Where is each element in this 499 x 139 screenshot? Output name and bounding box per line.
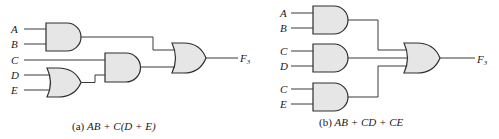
and-gate-c-de: [105, 53, 141, 82]
input-label-a: A: [10, 23, 18, 35]
and-gate-cd: [313, 44, 348, 72]
and-gate-ce: [313, 83, 348, 111]
output-label-f3: F3: [476, 53, 488, 67]
circuit-b: A B C D C E F3 (b) AB + CD + CE: [279, 6, 488, 129]
caption-a: (a) AB + C(D + E): [72, 120, 156, 133]
wire-ab-to-or: [81, 37, 175, 50]
input-label-c: C: [280, 45, 288, 57]
input-label-b: B: [11, 38, 18, 50]
or-gate-output: [404, 43, 440, 73]
output-label-f3: F3: [239, 52, 251, 66]
input-label-d: D: [279, 60, 288, 72]
input-label-d: D: [10, 69, 19, 81]
input-label-e: E: [10, 84, 18, 96]
input-label-e: E: [279, 98, 287, 110]
circuit-a: A B C D E F3 (a) AB + C(D + E): [10, 23, 251, 133]
input-label-a: A: [279, 7, 287, 19]
input-label-c: C: [11, 54, 19, 66]
and-gate-ab: [313, 6, 348, 34]
caption-b: (b) AB + CD + CE: [319, 116, 403, 129]
or-gate-output: [172, 43, 206, 73]
wire-ce-to-or: [348, 66, 407, 97]
and-gate-ab: [46, 23, 81, 51]
logic-circuit-figure: A B C D E F3 (a) AB + C(D + E) A B C: [0, 0, 499, 139]
wire-ab-to-or: [348, 20, 407, 50]
wire-de-to-and: [81, 75, 105, 83]
or-gate-de: [47, 68, 81, 97]
input-label-b: B: [280, 22, 287, 34]
input-label-c2: C: [280, 83, 288, 95]
